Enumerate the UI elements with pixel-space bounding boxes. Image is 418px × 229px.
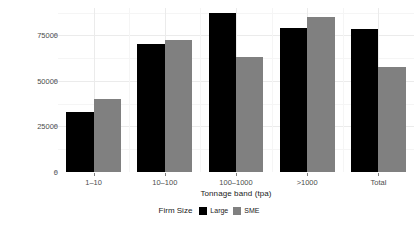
x-tick-mark xyxy=(307,173,308,176)
bar-large-0 xyxy=(66,112,93,172)
x-tick-label: >1000 xyxy=(297,178,318,187)
gridline-vertical-minor xyxy=(200,8,201,172)
bar-sme-0 xyxy=(94,99,121,172)
legend-label: Large xyxy=(210,207,228,214)
plot-panel xyxy=(58,8,414,172)
y-tick-mark xyxy=(54,35,57,36)
y-tick-mark xyxy=(54,126,57,127)
x-tick-label: Total xyxy=(370,178,386,187)
x-tick-mark xyxy=(236,173,237,176)
gridline-vertical-minor xyxy=(343,8,344,172)
bar-sme-1 xyxy=(165,40,192,172)
bar-sme-4 xyxy=(378,67,405,172)
y-tick-label: 25000 xyxy=(24,122,58,131)
bar-sme-3 xyxy=(307,17,334,172)
legend-label: SME xyxy=(244,207,259,214)
y-tick-mark xyxy=(54,80,57,81)
x-tick-label: 1–10 xyxy=(85,178,102,187)
gridline-vertical-minor xyxy=(272,8,273,172)
legend-entry-large: Large xyxy=(199,207,228,215)
legend-entry-sme: SME xyxy=(233,207,259,215)
y-tick-mark xyxy=(54,172,57,173)
bar-large-4 xyxy=(351,29,378,172)
bar-large-2 xyxy=(209,13,236,172)
bar-chart: Average cost (€) 0250005000075000 1–1010… xyxy=(0,0,418,229)
legend-title: Firm Size xyxy=(159,206,193,215)
legend-key-swatch xyxy=(199,207,207,215)
bar-large-1 xyxy=(137,44,164,172)
x-axis-title: Tonnage band (tpa) xyxy=(58,189,414,198)
legend: Firm Size LargeSME xyxy=(0,206,418,215)
y-tick-label: 75000 xyxy=(24,31,58,40)
x-tick-mark xyxy=(378,173,379,176)
x-tick-label: 100–1000 xyxy=(219,178,252,187)
y-axis-ticks: 0250005000075000 xyxy=(18,0,58,229)
gridline-vertical-minor xyxy=(129,8,130,172)
bar-sme-2 xyxy=(236,57,263,172)
y-tick-label: 50000 xyxy=(24,76,58,85)
x-tick-mark xyxy=(165,173,166,176)
y-tick-label: 0 xyxy=(24,168,58,177)
bar-large-3 xyxy=(280,28,307,172)
x-tick-mark xyxy=(94,173,95,176)
legend-key-swatch xyxy=(233,207,241,215)
x-tick-label: 10–100 xyxy=(152,178,177,187)
